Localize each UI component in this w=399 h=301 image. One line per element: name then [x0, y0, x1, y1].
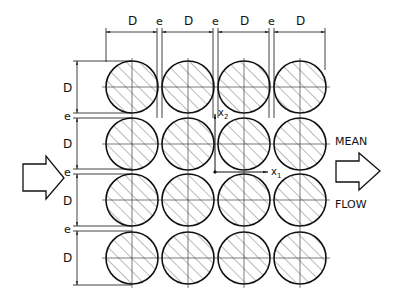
dim-left-e2: e: [64, 166, 71, 179]
left-dimension-labels: D e D e D e D: [63, 81, 72, 265]
top-dimension-labels: D e D e D e D: [128, 14, 305, 28]
dim-top-d1: D: [128, 14, 137, 28]
dim-top-e1: e: [156, 15, 163, 28]
axis-x1-label: x1: [271, 166, 281, 180]
dim-top-d2: D: [184, 14, 193, 28]
inlet-flow-arrow-icon: [23, 156, 64, 199]
dim-top-e2: e: [212, 15, 219, 28]
dim-top-d4: D: [296, 14, 305, 28]
dim-left-d3: D: [63, 194, 72, 208]
dim-left-d1: D: [63, 81, 72, 95]
outlet-flow-arrow-icon: [336, 153, 380, 190]
dim-left-d4: D: [63, 251, 72, 265]
dim-top-e3: e: [268, 15, 275, 28]
tube-bundle-diagram: D e D e D e D D e D e D e D: [0, 0, 399, 301]
mean-label: MEAN: [335, 135, 367, 148]
dim-left-d2: D: [63, 137, 72, 151]
dim-left-e3: e: [64, 223, 71, 236]
dim-top-d3: D: [240, 14, 249, 28]
dim-left-e1: e: [64, 110, 71, 123]
flow-label: FLOW: [335, 198, 367, 211]
axis-x2-label: x2: [218, 107, 228, 121]
